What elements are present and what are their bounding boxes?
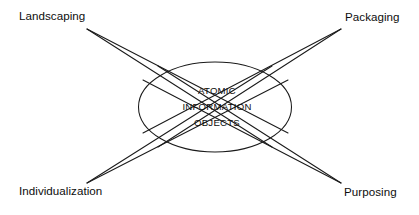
connector-group-individualization xyxy=(87,66,288,183)
connector-landscaping-lower xyxy=(87,29,272,147)
diagram-graphics: ATOMIC INFORMATION OBJECTS xyxy=(0,0,419,215)
connector-purposing-upper xyxy=(143,80,341,183)
node-label-purposing: Purposing xyxy=(344,185,397,198)
hub-text-line-3: OBJECTS xyxy=(194,117,240,128)
connector-purposing-lower xyxy=(158,66,341,183)
diagram-canvas: ATOMIC INFORMATION OBJECTS Landscaping P… xyxy=(0,0,419,215)
node-label-landscaping: Landscaping xyxy=(19,9,85,22)
node-label-individualization: Individualization xyxy=(19,184,102,197)
connector-individualization-upper xyxy=(87,80,288,183)
connector-landscaping-upper xyxy=(87,29,288,133)
connector-individualization-lower xyxy=(87,66,272,183)
connector-packaging-upper xyxy=(143,29,341,133)
connector-packaging-lower xyxy=(158,29,341,147)
hub-text-line-1: ATOMIC xyxy=(198,85,236,96)
hub-text-line-2: INFORMATION xyxy=(182,101,251,112)
node-label-packaging: Packaging xyxy=(345,10,400,23)
